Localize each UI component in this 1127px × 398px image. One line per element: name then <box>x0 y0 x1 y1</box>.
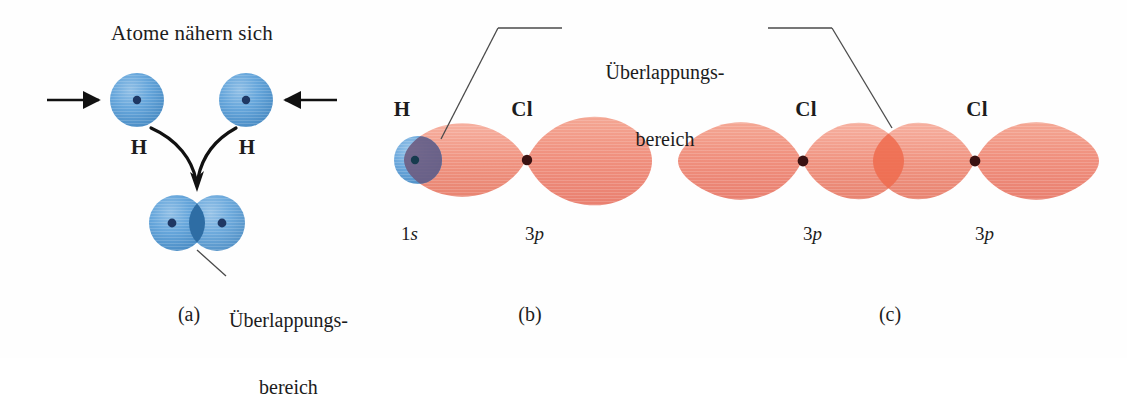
overlap-callout-a-line1: Überlappungs- <box>229 309 348 331</box>
nucleus-dot-molecule-right <box>218 219 227 228</box>
orbital-label-3p-c-right-type: p <box>985 223 995 244</box>
orbital-label-3p-c-right: 3p <box>956 202 994 266</box>
chlorine-nucleus-dot-b <box>522 155 532 165</box>
orbital-label-3p-c-left: 3p <box>784 202 822 266</box>
atom-label-h-left: H <box>131 136 148 160</box>
curved-arrow-right-icon <box>190 128 236 192</box>
orbital-label-3p-b: 3p <box>506 202 544 266</box>
atom-label-cl-c-left: Cl <box>795 98 817 122</box>
panel-caption-a: (a) <box>178 303 200 325</box>
panel-a-graphics <box>47 73 337 276</box>
orbital-label-3p-c-left-type: p <box>813 223 823 244</box>
panel-caption-c: (c) <box>879 303 901 325</box>
atom-label-h-b: H <box>394 98 411 122</box>
orbital-label-1s-b-n: 1 <box>401 223 411 244</box>
overlap-leader-line-a <box>197 250 226 276</box>
chlorine-nucleus-dot-c-right <box>970 156 981 167</box>
orbital-label-3p-b-n: 3 <box>525 223 535 244</box>
chlorine-nucleus-dot-c-left <box>798 156 809 167</box>
orbital-label-1s-b: 1s <box>382 202 418 266</box>
orbital-label-3p-b-type: p <box>535 223 545 244</box>
panel-a-heading: Atome nähern sich <box>111 22 273 46</box>
overlap-callout-top-line1: Überlappungs- <box>606 61 725 83</box>
atom-label-cl-c-right: Cl <box>966 98 988 122</box>
hydrogen-atom-sphere-left <box>110 73 164 127</box>
nucleus-dot-molecule-left <box>168 219 177 228</box>
overlap-callout-top: Überlappungs- bereich <box>606 16 725 195</box>
overlap-callout-a-line2: bereich <box>229 376 348 398</box>
orbital-label-3p-c-left-n: 3 <box>803 223 813 244</box>
orbital-label-1s-b-type: s <box>411 223 418 244</box>
atom-label-cl-b: Cl <box>511 98 533 122</box>
nucleus-dot-right <box>242 96 250 104</box>
nucleus-dot-left <box>133 96 141 104</box>
overlap-callout-top-line2: bereich <box>606 128 725 150</box>
overlap-leader-line-c <box>832 28 892 128</box>
hydrogen-nucleus-dot-b <box>411 156 419 164</box>
hydrogen-molecule-overlap <box>149 195 245 251</box>
hydrogen-atom-sphere-right <box>219 73 273 127</box>
overlap-callout-a: Überlappungs- bereich <box>229 264 348 398</box>
panel-c-graphics <box>678 28 1099 200</box>
overlap-leader-line-b <box>441 28 498 139</box>
atom-label-h-right: H <box>239 136 256 160</box>
curved-arrow-head-icon <box>190 171 204 192</box>
panel-caption-b: (b) <box>518 303 541 325</box>
orbital-label-3p-c-right-n: 3 <box>975 223 985 244</box>
curved-arrow-left-icon <box>151 128 196 180</box>
